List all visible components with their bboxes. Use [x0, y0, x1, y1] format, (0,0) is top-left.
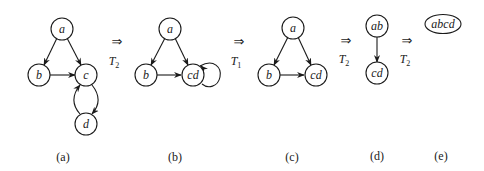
svg-text:a: a	[167, 22, 173, 36]
edge-a-b	[151, 38, 165, 65]
svg-text:a: a	[290, 21, 296, 35]
node-c: c	[75, 64, 97, 86]
node-cd: cd	[305, 64, 327, 86]
svg-text:d: d	[83, 117, 90, 131]
caption-c: (c)	[285, 150, 298, 164]
node-cd: cd	[366, 62, 388, 84]
edge-a-b	[274, 37, 288, 65]
transform-3: ⇒ T2	[339, 33, 352, 68]
svg-text:c: c	[83, 68, 89, 82]
svg-text:cd: cd	[310, 68, 322, 82]
svg-text:abcd: abcd	[431, 17, 455, 31]
edge-a-cd	[175, 38, 188, 65]
transform-label: T2	[339, 52, 350, 68]
transform-label: T2	[109, 54, 120, 70]
edge-a-cd	[298, 37, 311, 65]
panel-d: ab cd (d)	[366, 15, 388, 163]
node-ab: ab	[366, 15, 388, 37]
svg-text:b: b	[143, 68, 149, 82]
double-arrow-icon: ⇒	[341, 33, 352, 48]
node-b: b	[28, 64, 50, 86]
edge-a-b	[44, 38, 57, 65]
node-abcd: abcd	[425, 15, 461, 34]
node-a: a	[159, 18, 181, 40]
caption-d: (d)	[370, 149, 384, 163]
svg-text:a: a	[59, 22, 65, 36]
node-b: b	[135, 64, 157, 86]
panel-c: a b cd (c)	[258, 17, 327, 164]
svg-text:cd: cd	[371, 66, 383, 80]
transform-2: ⇒ T1	[231, 34, 245, 70]
double-arrow-icon: ⇒	[112, 34, 123, 49]
panel-e: abcd (e)	[425, 15, 461, 164]
panel-b: a b cd (b)	[135, 18, 220, 164]
svg-text:ab: ab	[371, 19, 383, 33]
edge-a-c	[67, 38, 81, 65]
panel-a: a b c d (a)	[28, 18, 98, 164]
transform-label: T2	[400, 52, 411, 68]
transform-1: ⇒ T2	[109, 34, 123, 70]
node-a: a	[51, 18, 73, 40]
caption-b: (b)	[168, 150, 182, 164]
transform-4: ⇒ T2	[400, 33, 413, 68]
svg-text:cd: cd	[187, 68, 199, 82]
node-a: a	[282, 17, 304, 39]
svg-text:b: b	[266, 68, 272, 82]
double-arrow-icon: ⇒	[234, 34, 245, 49]
double-arrow-icon: ⇒	[402, 33, 413, 48]
node-cd: cd	[182, 64, 204, 86]
caption-a: (a)	[56, 150, 69, 164]
edge-d-c	[74, 85, 80, 114]
edge-c-d	[92, 85, 98, 114]
transform-label: T1	[231, 54, 242, 70]
graph-reduction-diagram: a b c d (a) ⇒ T2 a b cd (b) ⇒ T1 a b cd …	[0, 0, 484, 171]
node-d: d	[75, 113, 97, 135]
svg-text:b: b	[36, 68, 42, 82]
caption-e: (e)	[434, 149, 447, 163]
node-b: b	[258, 64, 280, 86]
